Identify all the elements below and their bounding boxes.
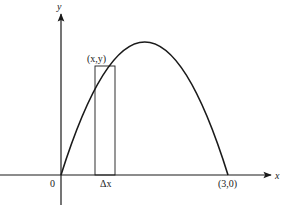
- y-axis-label: y: [56, 1, 62, 12]
- delta-x-label: Δx: [100, 178, 111, 189]
- point-label: (x,y): [87, 53, 106, 65]
- x-intercept-label: (3,0): [218, 178, 237, 190]
- x-axis-label: x: [274, 170, 280, 181]
- diagram-canvas: y x 0 (x,y) Δx (3,0): [0, 0, 284, 205]
- origin-label: 0: [50, 178, 55, 189]
